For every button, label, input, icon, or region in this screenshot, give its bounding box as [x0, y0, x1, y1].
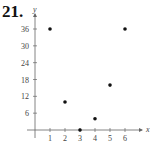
scatter-plot: yx12345661218243036: [0, 0, 167, 149]
data-point: [78, 128, 82, 132]
y-tick-label: 30: [21, 42, 29, 51]
x-tick-label: 6: [123, 134, 127, 143]
x-tick-label: 1: [48, 134, 52, 143]
x-axis-arrow-icon: [139, 128, 143, 132]
x-tick-label: 3: [78, 134, 82, 143]
data-point: [48, 27, 52, 31]
y-tick-label: 18: [21, 76, 29, 85]
y-axis-label: y: [32, 5, 37, 14]
y-tick-label: 6: [25, 109, 29, 118]
y-tick-label: 12: [21, 92, 29, 101]
x-axis-label: x: [145, 125, 150, 134]
data-point: [123, 27, 127, 31]
x-tick-label: 5: [108, 134, 112, 143]
data-point: [93, 117, 97, 121]
data-point: [63, 100, 67, 104]
y-tick-label: 36: [21, 25, 29, 34]
y-tick-label: 24: [21, 59, 29, 68]
data-point: [108, 83, 112, 87]
x-tick-label: 2: [63, 134, 67, 143]
x-tick-label: 4: [93, 134, 97, 143]
